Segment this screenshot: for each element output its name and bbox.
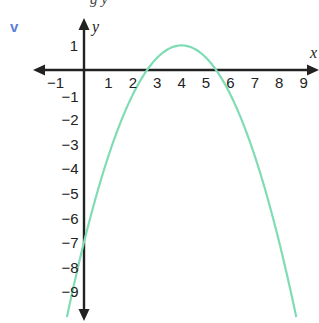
- x-axis-right-arrow-icon: [307, 65, 319, 76]
- y-tick-label: −3: [61, 135, 78, 152]
- y-tick-label: 1: [70, 37, 78, 54]
- x-tick-label: 6: [226, 74, 234, 91]
- y-axis-title: y: [92, 18, 99, 36]
- x-tick-label: 5: [202, 74, 210, 91]
- x-tick-label: 2: [129, 74, 137, 91]
- x-axis-title: x: [310, 44, 317, 62]
- y-tick-label: −6: [61, 209, 78, 226]
- y-tick-label: −8: [61, 258, 78, 275]
- x-tick-label: 3: [153, 74, 161, 91]
- x-tick-label: 1: [104, 74, 112, 91]
- plot-area: [0, 0, 319, 323]
- y-tick-label: −7: [61, 234, 78, 251]
- y-axis-down-arrow-icon: [79, 309, 90, 321]
- y-axis-up-arrow-icon: [79, 18, 90, 30]
- x-tick-label: 4: [177, 74, 185, 91]
- y-tick-label: −4: [61, 160, 78, 177]
- graph-figure: g y v −1123456789 1−1−2−3−4−5−6−7−8−9 x …: [0, 0, 319, 323]
- y-tick-label: −2: [61, 111, 78, 128]
- y-tick-label: −9: [61, 283, 78, 300]
- y-axis: [79, 18, 90, 321]
- y-tick-label: −1: [61, 87, 78, 104]
- x-tick-label: 9: [299, 74, 307, 91]
- x-axis-left-arrow-icon: [33, 65, 45, 76]
- x-tick-label: 8: [275, 74, 283, 91]
- y-tick-label: −5: [61, 185, 78, 202]
- x-tick-label: 7: [251, 74, 259, 91]
